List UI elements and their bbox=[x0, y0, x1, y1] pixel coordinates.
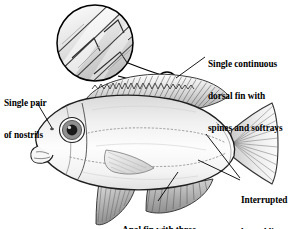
label-lateral-line2: lateral line bbox=[241, 227, 287, 229]
label-lateral-line1: Interrupted bbox=[241, 195, 287, 206]
label-anal-fin: Anal fin with three or more spines bbox=[122, 204, 196, 229]
label-nostrils-line2: of nostrils bbox=[4, 130, 47, 141]
label-dorsal-line2: dorsal fin with bbox=[208, 91, 282, 102]
label-nostrils: Single pair of nostrils bbox=[4, 77, 47, 162]
fish-body bbox=[31, 95, 235, 189]
label-nostrils-line1: Single pair bbox=[4, 98, 47, 109]
label-dorsal-fin: Single continuous dorsal fin with spines… bbox=[208, 38, 282, 155]
label-dorsal-line3: spines and softrays bbox=[208, 123, 282, 134]
fish-eye bbox=[60, 118, 85, 143]
label-anal-line1: Anal fin with three bbox=[122, 225, 196, 229]
nostril-mark bbox=[50, 128, 54, 130]
label-dorsal-line1: Single continuous bbox=[208, 59, 282, 70]
label-lateral-line: Interrupted lateral line bbox=[241, 174, 287, 229]
leader-dorsal bbox=[176, 57, 205, 78]
fish-anatomy-figure: Single continuous dorsal fin with spines… bbox=[0, 0, 303, 229]
